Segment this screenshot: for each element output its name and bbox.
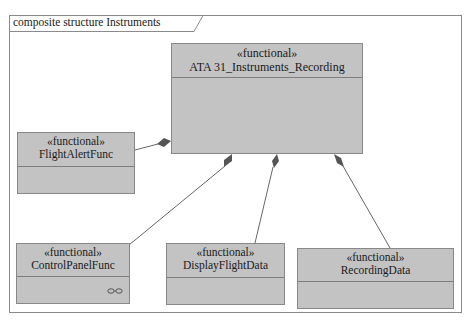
composition-diamond-icon <box>157 138 171 147</box>
link-display-flight[interactable] <box>255 167 273 243</box>
composition-diamond-icon <box>272 154 279 168</box>
stereotype-label: «functional» <box>17 246 129 259</box>
block-header: «functional» ATA 31_Instruments_Recordin… <box>172 44 362 78</box>
stereotype-label: «functional» <box>167 246 284 259</box>
block-header: «functional» RecordingData <box>298 249 453 282</box>
block-header: «functional» ControlPanelFunc <box>17 244 129 277</box>
stereotype-label: «functional» <box>298 251 453 264</box>
stereotype-label: «functional» <box>172 46 362 60</box>
block-name: FlightAlertFunc <box>18 148 134 161</box>
block-header: «functional» FlightAlertFunc <box>18 133 134 167</box>
link-flight-alert[interactable] <box>135 144 158 150</box>
block-name: RecordingData <box>298 264 453 277</box>
stereotype-label: «functional» <box>18 135 134 148</box>
link-recording[interactable] <box>343 166 390 248</box>
block-control-panel-func[interactable]: «functional» ControlPanelFunc <box>16 243 130 304</box>
link-control-panel[interactable] <box>129 166 225 245</box>
decomposition-rake-icon <box>107 288 123 294</box>
block-ata31-instruments-recording[interactable]: «functional» ATA 31_Instruments_Recordin… <box>171 43 363 154</box>
composition-diamond-icon <box>334 154 344 167</box>
block-recording-data[interactable]: «functional» RecordingData <box>297 248 454 309</box>
block-display-flight-data[interactable]: «functional» DisplayFlightData <box>166 243 285 305</box>
block-name: ControlPanelFunc <box>17 259 129 272</box>
composition-diamond-icon <box>224 154 232 167</box>
block-name: DisplayFlightData <box>167 259 284 272</box>
block-header: «functional» DisplayFlightData <box>167 244 284 278</box>
block-flight-alert-func[interactable]: «functional» FlightAlertFunc <box>17 132 135 194</box>
block-name: ATA 31_Instruments_Recording <box>172 60 362 74</box>
